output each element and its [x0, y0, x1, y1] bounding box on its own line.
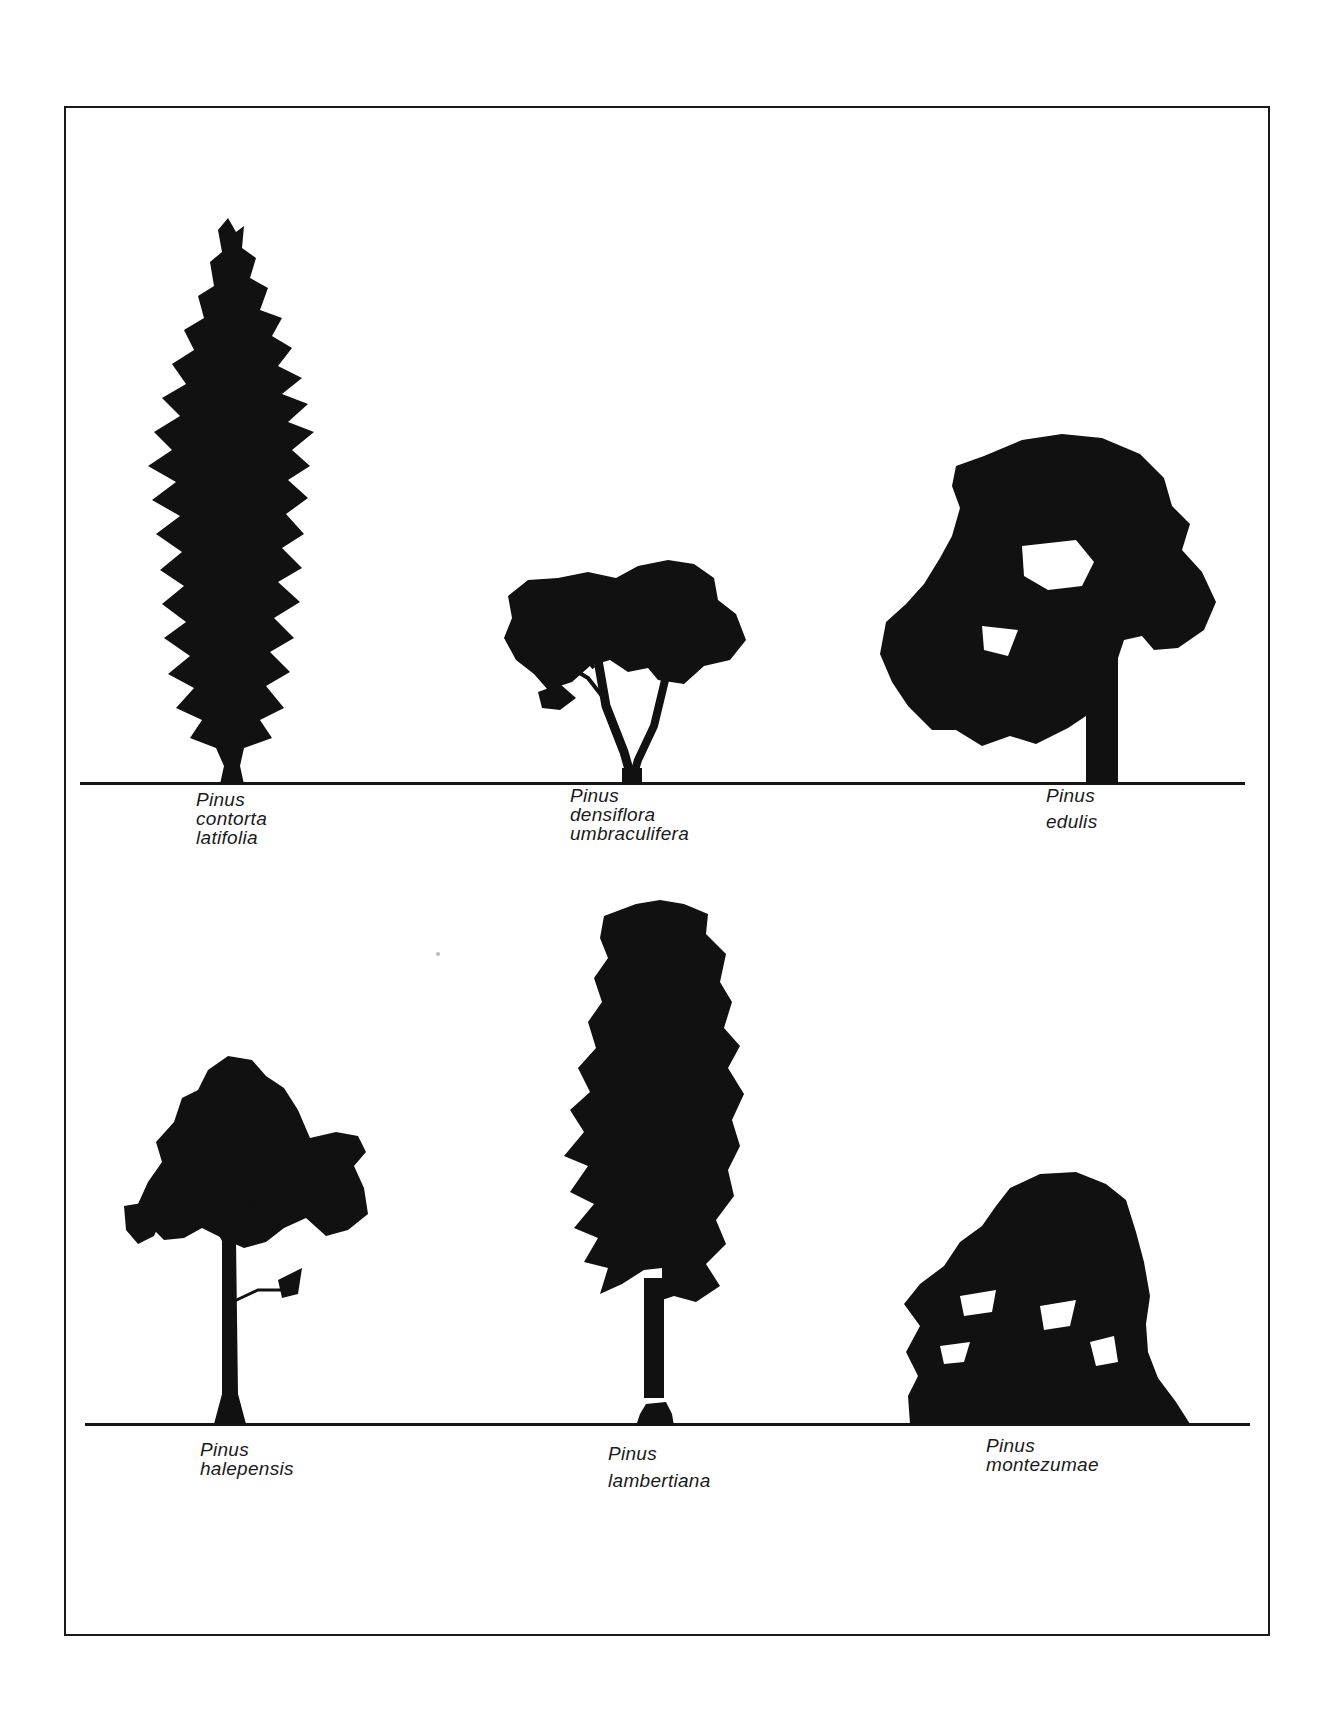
epithet-label: lambertiana: [608, 1471, 711, 1490]
epithet-label: halepensis: [200, 1459, 294, 1478]
species-label-2: Pinus densiflora umbraculifera: [570, 786, 689, 843]
epithet-label: densiflora: [570, 805, 689, 824]
genus-label: Pinus: [986, 1436, 1099, 1455]
tree-silhouette-pinus-densiflora-umbraculifera: [498, 556, 750, 784]
epithet-label: contorta: [196, 809, 267, 828]
epithet-label: montezumae: [986, 1455, 1099, 1474]
genus-label: Pinus: [570, 786, 689, 805]
tree-silhouette-pinus-halepensis: [118, 1054, 386, 1424]
domed-pine-icon: [900, 1166, 1190, 1424]
variety-label: umbraculifera: [570, 824, 689, 843]
broad-pine-icon: [872, 426, 1228, 784]
species-label-4: Pinus halepensis: [200, 1440, 294, 1478]
tall-conifer-icon: [556, 898, 752, 1426]
epithet-label: edulis: [1046, 812, 1097, 831]
genus-label: Pinus: [196, 790, 267, 809]
species-label-1: Pinus contorta latifolia: [196, 790, 267, 847]
tree-silhouette-pinus-edulis: [872, 426, 1228, 784]
species-label-3: Pinus edulis: [1046, 786, 1097, 831]
genus-label: Pinus: [608, 1444, 711, 1463]
species-label-5: Pinus lambertiana: [608, 1444, 711, 1490]
tree-silhouette-pinus-lambertiana: [556, 898, 752, 1426]
conifer-icon: [132, 218, 332, 784]
umbrella-pine-icon: [498, 556, 750, 784]
open-crown-pine-icon: [118, 1054, 386, 1424]
variety-label: latifolia: [196, 828, 267, 847]
species-label-6: Pinus montezumae: [986, 1436, 1099, 1474]
tree-silhouette-pinus-montezumae: [900, 1166, 1190, 1424]
tree-silhouette-pinus-contorta-latifolia: [132, 218, 332, 784]
genus-label: Pinus: [1046, 786, 1097, 805]
print-speck: [436, 952, 440, 956]
genus-label: Pinus: [200, 1440, 294, 1459]
